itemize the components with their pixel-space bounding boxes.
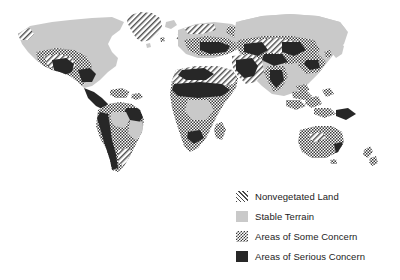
map-legend: Nonvegetated Land Stable Terrain Areas o…	[236, 186, 400, 274]
world-map	[0, 0, 400, 180]
legend-label-nonvegetated-land: Nonvegetated Land	[255, 191, 339, 202]
legend-swatch-nonvegetated-land	[236, 191, 248, 202]
legend-label-areas-of-some-concern: Areas of Some Concern	[255, 231, 357, 242]
world-map-svg	[0, 0, 400, 180]
legend-label-stable-terrain: Stable Terrain	[255, 211, 314, 222]
legend-swatch-areas-of-serious-concern	[236, 251, 248, 262]
legend-item-nonvegetated-land: Nonvegetated Land	[236, 186, 400, 206]
legend-item-stable-terrain: Stable Terrain	[236, 206, 400, 226]
legend-swatch-areas-of-some-concern	[236, 231, 248, 242]
legend-item-areas-of-some-concern: Areas of Some Concern	[236, 226, 400, 246]
legend-swatch-stable-terrain	[236, 211, 248, 222]
figure-root: Nonvegetated Land Stable Terrain Areas o…	[0, 0, 400, 280]
legend-item-areas-of-serious-concern: Areas of Serious Concern	[236, 246, 400, 266]
legend-label-areas-of-serious-concern: Areas of Serious Concern	[255, 251, 365, 262]
